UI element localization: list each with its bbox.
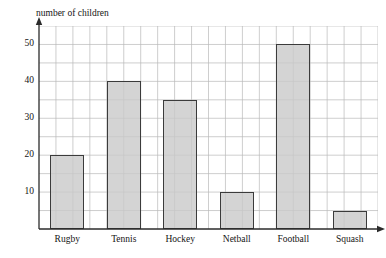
x-label-hockey: Hockey bbox=[152, 233, 209, 245]
bar-squash bbox=[333, 211, 367, 229]
x-label-squash: Squash bbox=[322, 233, 379, 245]
y-axis-tick-labels: 1020304050 bbox=[10, 26, 34, 229]
bar-rugby bbox=[50, 155, 84, 229]
bar-series bbox=[39, 26, 378, 229]
bar-netball bbox=[220, 192, 254, 229]
bar-hockey bbox=[163, 100, 197, 229]
clipped-header-artifact bbox=[0, 0, 386, 8]
x-label-football: Football bbox=[265, 233, 322, 245]
y-tick-label-30: 30 bbox=[25, 113, 35, 123]
x-label-rugby: Rugby bbox=[39, 233, 96, 245]
x-label-tennis: Tennis bbox=[96, 233, 153, 245]
x-label-netball: Netball bbox=[209, 233, 266, 245]
y-tick-label-40: 40 bbox=[25, 76, 35, 86]
bar-chart: number of children 1020304050 RugbyTenni… bbox=[0, 0, 386, 258]
bar-tennis bbox=[107, 81, 141, 229]
y-tick-label-10: 10 bbox=[25, 187, 35, 197]
y-tick-label-50: 50 bbox=[25, 39, 35, 49]
plot-area bbox=[39, 26, 378, 229]
x-axis-category-labels: RugbyTennisHockeyNetballFootballSquash bbox=[39, 233, 378, 251]
y-tick-label-20: 20 bbox=[25, 150, 35, 160]
y-axis-label: number of children bbox=[36, 8, 109, 19]
bar-football bbox=[276, 44, 310, 229]
